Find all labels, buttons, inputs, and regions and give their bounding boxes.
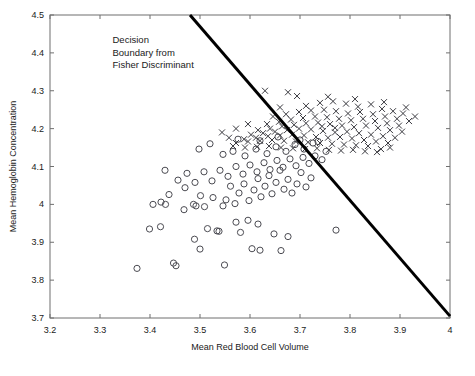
data-point-circle [255, 176, 261, 182]
data-point-cross [362, 148, 368, 154]
data-point-cross [288, 117, 294, 123]
data-point-cross [381, 99, 387, 105]
data-point-cross [352, 96, 358, 102]
x-tick-label: 3.3 [94, 325, 107, 335]
data-point-cross [262, 88, 268, 94]
data-point-circle [201, 169, 207, 175]
data-point-circle [264, 151, 270, 157]
data-point-cross [345, 110, 351, 116]
axis-frame [50, 15, 450, 318]
data-point-cross [277, 132, 283, 138]
y-tick-label: 4.5 [31, 10, 44, 20]
y-axis-ticks [50, 15, 450, 318]
y-tick-label: 4 [39, 199, 44, 209]
data-point-circle [240, 171, 246, 177]
data-point-cross [373, 139, 379, 145]
data-point-circle [233, 163, 239, 169]
x-axis-ticks [50, 15, 450, 318]
data-point-circle [251, 187, 257, 193]
y-tick-label: 3.8 [31, 275, 44, 285]
data-point-circle [210, 194, 216, 200]
y-tick-label: 3.7 [31, 313, 44, 323]
data-point-circle [204, 226, 210, 232]
data-point-circle [303, 184, 309, 190]
data-point-cross [319, 123, 325, 129]
data-point-cross [372, 118, 378, 124]
data-point-circle [258, 194, 264, 200]
data-point-cross [368, 132, 374, 138]
data-point-circle [285, 176, 291, 182]
data-point-circle [287, 156, 293, 162]
data-point-circle [289, 190, 295, 196]
data-point-circle [181, 207, 187, 213]
data-point-cross [363, 123, 369, 129]
axis-titles: Mean Red Blood Cell VolumeMean Hemoglobi… [8, 101, 309, 352]
data-point-circle [266, 172, 272, 178]
data-point-cross [269, 137, 275, 143]
data-point-cross [399, 129, 405, 135]
x-axis-title: Mean Red Blood Cell Volume [191, 342, 309, 352]
data-point-cross [357, 109, 363, 115]
data-point-cross [300, 115, 306, 121]
data-point-circle [192, 179, 198, 185]
data-point-cross [406, 118, 412, 124]
data-point-cross [333, 108, 339, 114]
data-point-cross [339, 123, 345, 129]
data-point-cross [219, 129, 225, 135]
data-point-cross [266, 143, 272, 149]
data-point-circle [225, 173, 231, 179]
y-tick-label: 4.3 [31, 86, 44, 96]
data-point-cross [378, 146, 384, 152]
decision-boundary-annotation: DecisionBoundary fromFisher Discriminant [113, 34, 195, 70]
data-point-cross [281, 138, 287, 144]
y-axis-title: Mean Hemoglobin Concentration [8, 101, 18, 233]
data-point-circle [269, 191, 275, 197]
data-point-cross [294, 93, 300, 99]
data-point-circle [294, 181, 300, 187]
data-point-cross [400, 110, 406, 116]
data-point-circle [223, 197, 229, 203]
data-point-circle [333, 227, 339, 233]
data-point-cross [314, 145, 320, 151]
data-point-cross [379, 106, 385, 112]
decision-boundary-line [190, 15, 450, 316]
data-point-circle [254, 169, 260, 175]
series-class-cross [219, 88, 418, 155]
data-point-circle [146, 226, 152, 232]
data-point-circle [245, 217, 251, 223]
data-point-cross [327, 121, 333, 127]
x-tick-label: 3.9 [394, 325, 407, 335]
data-point-circle [196, 146, 202, 152]
data-point-cross [242, 145, 248, 151]
y-axis-tick-labels: 3.73.83.944.14.24.34.44.5 [31, 10, 44, 323]
data-point-cross [329, 141, 335, 147]
data-point-cross [245, 121, 251, 127]
data-point-cross [285, 89, 291, 95]
data-point-cross [390, 108, 396, 114]
data-point-circle [237, 229, 243, 235]
x-tick-label: 4 [447, 325, 452, 335]
data-point-circle [175, 177, 181, 183]
data-point-cross [254, 144, 260, 150]
plot-canvas: 3.23.33.43.53.63.73.83.94 3.73.83.944.14… [0, 0, 475, 376]
data-point-circle [157, 224, 163, 230]
plot-frame [50, 15, 450, 318]
data-point-cross [396, 123, 402, 129]
data-point-cross [382, 114, 388, 120]
data-point-circle [308, 175, 314, 181]
data-point-circle [162, 167, 168, 173]
x-axis-tick-labels: 3.23.33.43.53.63.73.83.94 [44, 325, 453, 335]
annotation-line: Decision [113, 34, 149, 45]
data-point-circle [184, 170, 190, 176]
data-point-circle [281, 186, 287, 192]
series-class-circle [134, 134, 339, 272]
data-point-circle [278, 247, 284, 253]
data-point-circle [150, 201, 156, 207]
data-point-cross [387, 127, 393, 133]
data-point-cross [360, 116, 366, 122]
data-point-circle [273, 179, 279, 185]
data-point-circle [271, 231, 277, 237]
data-point-cross [394, 116, 400, 122]
data-point-cross [303, 120, 309, 126]
data-point-circle [253, 146, 259, 152]
